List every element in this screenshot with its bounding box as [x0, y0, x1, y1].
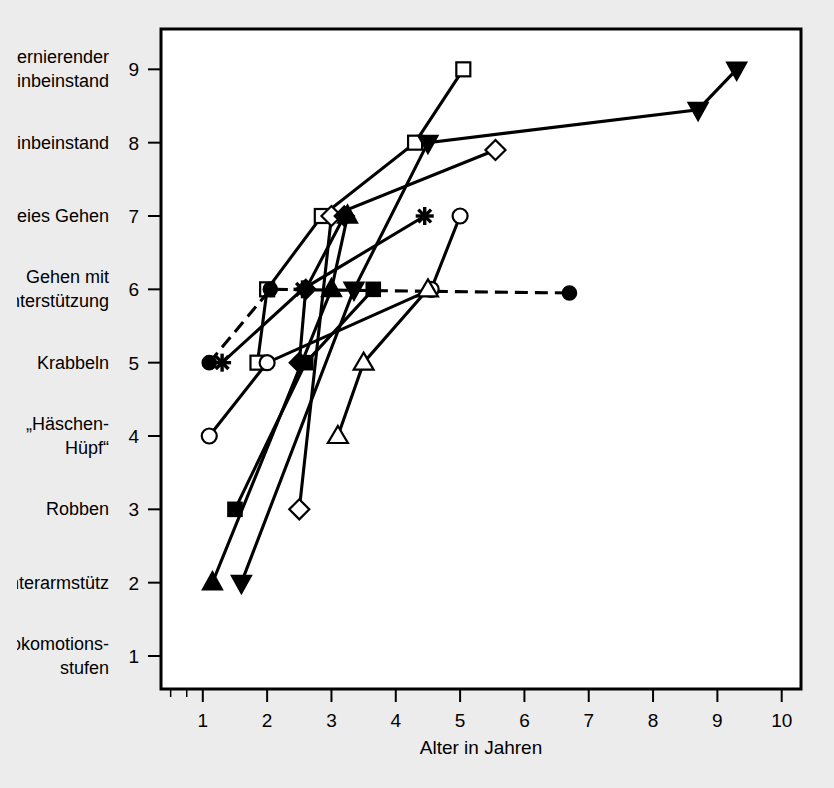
x-tick-label: 10	[771, 710, 792, 731]
y-category-label: Gehen mitUnterstützung	[17, 267, 109, 311]
x-tick-label: 7	[583, 710, 594, 731]
x-tick-label: 9	[712, 710, 723, 731]
y-category-label: „Häschen-Hüpf“	[26, 414, 109, 458]
y-tick-label: 5	[128, 353, 139, 374]
y-tick-label: 2	[128, 573, 139, 594]
star-marker	[416, 207, 434, 225]
y-category-label-line: Unterstützung	[17, 291, 109, 311]
y-category-label-line: Einbeinstand	[17, 71, 109, 91]
square-open-marker	[456, 62, 470, 76]
y-category-label-line: Gehen mit	[26, 267, 109, 287]
y-category-label: freies Gehen	[17, 206, 109, 226]
y-category-label: Unterarmstütz	[17, 573, 109, 593]
y-category-label-line: Einbeinstand	[17, 133, 109, 153]
x-tick-label: 5	[455, 710, 466, 731]
y-tick-label: 8	[128, 133, 139, 154]
y-category-label-line: stufen	[60, 658, 109, 678]
y-category-label-line: Unterarmstütz	[17, 573, 109, 593]
figure-panel: 123456789 alternierenderEinbeinstandEinb…	[0, 0, 834, 788]
y-category-label-line: „Häschen-	[26, 414, 109, 434]
x-tick-label: 6	[519, 710, 530, 731]
circle-filled-marker	[263, 282, 277, 296]
y-category-label-line: freies Gehen	[17, 206, 109, 226]
x-tick-label: 8	[648, 710, 659, 731]
y-category-label: Robben	[46, 499, 109, 519]
y-axis-tick-labels: 123456789	[128, 59, 139, 667]
y-category-label-line: Robben	[46, 499, 109, 519]
star-marker	[213, 354, 231, 372]
y-tick-label: 4	[128, 426, 139, 447]
y-category-label: alternierenderEinbeinstand	[17, 47, 109, 91]
y-category-label-line: Krabbeln	[37, 353, 109, 373]
y-category-label-line: Lokomotions-	[17, 634, 109, 654]
x-axis-ticks	[171, 689, 782, 702]
y-axis-category-labels: alternierenderEinbeinstandEinbeinstandfr…	[17, 47, 109, 678]
circle-open-marker	[202, 429, 217, 444]
x-axis-tick-labels: 12345678910	[198, 710, 793, 731]
y-category-label: Einbeinstand	[17, 133, 109, 153]
y-category-label-line: alternierender	[17, 47, 109, 67]
figure-inner-panel: 123456789 alternierenderEinbeinstandEinb…	[17, 9, 817, 771]
x-axis-title: Alter in Jahren	[420, 737, 543, 758]
circle-open-marker	[260, 355, 275, 370]
y-tick-label: 3	[128, 499, 139, 520]
y-axis-ticks	[148, 69, 161, 656]
y-tick-label: 9	[128, 59, 139, 80]
y-tick-label: 7	[128, 206, 139, 227]
y-tick-label: 1	[128, 646, 139, 667]
x-tick-label: 3	[326, 710, 337, 731]
x-tick-label: 4	[390, 710, 401, 731]
y-category-label: Krabbeln	[37, 353, 109, 373]
circle-filled-marker	[562, 286, 576, 300]
x-tick-label: 1	[198, 710, 209, 731]
star-marker	[294, 280, 312, 298]
x-tick-label: 2	[262, 710, 273, 731]
lokomotionsstufen-chart: 123456789 alternierenderEinbeinstandEinb…	[17, 9, 817, 771]
y-tick-label: 6	[128, 279, 139, 300]
circle-open-marker	[453, 209, 468, 224]
y-category-label: Lokomotions-stufen	[17, 634, 109, 678]
y-category-label-line: Hüpf“	[65, 438, 109, 458]
